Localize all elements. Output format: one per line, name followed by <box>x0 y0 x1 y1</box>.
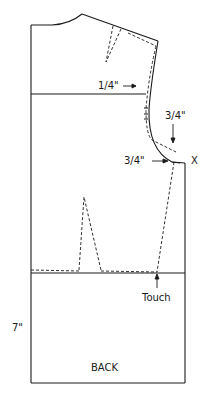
arrow-head <box>132 84 136 88</box>
armhole-curve <box>149 41 180 163</box>
side-extension-label: 3/4" <box>124 156 145 166</box>
hip-depth-label: 7" <box>12 323 23 333</box>
adjusted-waist <box>31 270 157 272</box>
adjusted-armhole <box>146 46 176 152</box>
neckline <box>31 14 82 25</box>
shoulder-line <box>82 14 158 41</box>
arrow-head <box>155 274 159 279</box>
point-x-label: X <box>191 156 198 166</box>
shoulder-dart <box>106 26 121 62</box>
arrow-head <box>171 138 175 143</box>
waist-dart <box>79 197 101 270</box>
adjusted-side-seam <box>157 162 174 272</box>
back-bodice-pattern <box>0 0 211 398</box>
armhole-shift-label: 1/4" <box>98 81 119 91</box>
touch-label: Touch <box>142 293 171 303</box>
piece-name-label: BACK <box>91 363 118 373</box>
underarm-drop-label: 3/4" <box>165 111 186 121</box>
